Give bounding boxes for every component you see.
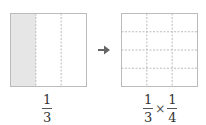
fraction-bar <box>42 108 52 109</box>
fraction-bar <box>143 108 153 109</box>
arrow-right-icon <box>98 46 110 55</box>
left-label: 1 3 <box>42 93 52 124</box>
shaded-region <box>11 14 36 87</box>
right-square <box>122 14 198 87</box>
fraction-one-third: 1 3 <box>42 93 52 124</box>
left-square <box>11 14 87 87</box>
numerator: 1 <box>167 93 177 106</box>
right-label: 1 3 × 1 4 <box>143 93 178 124</box>
denominator: 3 <box>143 111 153 124</box>
numerator: 1 <box>42 93 52 106</box>
denominator: 4 <box>167 111 177 124</box>
fraction-one-fourth: 1 4 <box>167 93 177 124</box>
numerator: 1 <box>143 93 153 106</box>
fraction-bar <box>167 108 177 109</box>
multiply-sign: × <box>155 102 165 116</box>
fraction-one-third: 1 3 <box>143 93 153 124</box>
denominator: 3 <box>42 111 52 124</box>
